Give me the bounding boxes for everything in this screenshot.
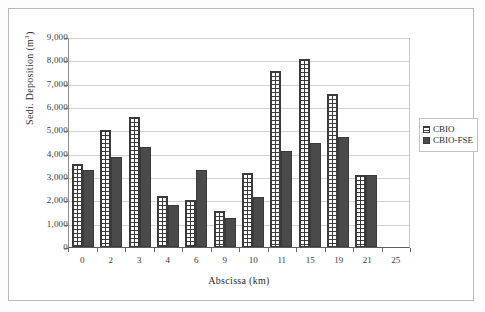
bar-cbio-fse: [253, 197, 264, 247]
bar-group: [267, 39, 295, 247]
legend-item-cbio-fse: CBIO-FSE: [423, 136, 473, 145]
bar-cbio: [157, 196, 168, 247]
y-tick-mark: [64, 225, 68, 226]
y-tick-mark: [64, 201, 68, 202]
y-tick-mark: [64, 61, 68, 62]
y-tick-mark: [64, 108, 68, 109]
x-tick-mark: [382, 248, 383, 252]
x-axis-label: Abscissa (km): [68, 275, 410, 286]
x-tick-mark: [68, 248, 69, 252]
x-tick-mark: [182, 248, 183, 252]
x-tick-label: 15: [297, 256, 323, 265]
bar-group: [126, 39, 154, 247]
x-tick-label: 19: [326, 256, 352, 265]
bar-group: [239, 39, 267, 247]
y-tick-mark: [64, 178, 68, 179]
bar-cbio: [327, 94, 338, 247]
chart-figure: Sedi. Deposition (m3) Abscissa (km) CBIO…: [0, 0, 485, 312]
x-tick-label: 25: [383, 256, 409, 265]
x-tick-label: 3: [126, 256, 152, 265]
bar-cbio-fse: [281, 151, 292, 247]
y-tick-label: 3,000: [22, 173, 68, 182]
bar-group: [211, 39, 239, 247]
x-tick-label: 6: [183, 256, 209, 265]
x-tick-label: 21: [354, 256, 380, 265]
bar-cbio-fse: [310, 143, 321, 247]
legend-label-cbio-fse: CBIO-FSE: [433, 136, 473, 145]
x-tick-mark: [125, 248, 126, 252]
y-tick-label: 4,000: [22, 150, 68, 159]
bar-group: [97, 39, 125, 247]
x-tick-label: 2: [98, 256, 124, 265]
bar-cbio-fse: [168, 205, 179, 247]
plot-area: [68, 38, 410, 248]
x-tick-label: 4: [155, 256, 181, 265]
y-tick-mark: [64, 131, 68, 132]
bar-cbio: [270, 71, 281, 247]
legend-swatch-cbio-icon: [423, 126, 430, 133]
bar-cbio: [355, 175, 366, 247]
x-tick-label: 11: [269, 256, 295, 265]
x-tick-mark: [268, 248, 269, 252]
bar-group: [296, 39, 324, 247]
bar-cbio: [299, 59, 310, 247]
bar-cbio: [242, 173, 253, 247]
y-tick-label: 2,000: [22, 196, 68, 205]
bar-cbio-fse: [338, 137, 349, 247]
x-tick-mark: [211, 248, 212, 252]
y-tick-mark: [64, 38, 68, 39]
y-tick-label: 6,000: [22, 103, 68, 112]
y-tick-label: 7,000: [22, 80, 68, 89]
bar-cbio: [185, 200, 196, 247]
chart-legend: CBIO CBIO-FSE: [419, 118, 478, 152]
y-tick-label: 5,000: [22, 126, 68, 135]
legend-swatch-cbio-fse-icon: [423, 137, 430, 144]
bar-group: [381, 39, 409, 247]
x-tick-mark: [410, 248, 411, 252]
x-tick-mark: [239, 248, 240, 252]
bar-group: [182, 39, 210, 247]
bar-cbio: [214, 211, 225, 247]
x-tick-mark: [353, 248, 354, 252]
bar-cbio-fse: [225, 218, 236, 247]
y-tick-mark: [64, 85, 68, 86]
y-tick-mark: [64, 155, 68, 156]
bar-cbio-fse: [196, 170, 207, 247]
y-tick-label: 8,000: [22, 56, 68, 65]
bar-group: [154, 39, 182, 247]
x-tick-mark: [154, 248, 155, 252]
bar-cbio: [100, 130, 111, 247]
y-tick-label: 9,000: [22, 33, 68, 42]
legend-item-cbio: CBIO: [423, 125, 473, 134]
y-tick-label: 0: [22, 243, 68, 252]
bar-cbio: [72, 164, 83, 247]
x-tick-label: 0: [69, 256, 95, 265]
y-tick-label: 1,000: [22, 220, 68, 229]
x-tick-mark: [296, 248, 297, 252]
bar-group: [324, 39, 352, 247]
x-tick-label: 9: [212, 256, 238, 265]
bar-cbio: [129, 117, 140, 247]
x-tick-mark: [97, 248, 98, 252]
legend-label-cbio: CBIO: [433, 125, 455, 134]
bar-groups: [69, 39, 409, 247]
bar-group: [69, 39, 97, 247]
bar-group: [352, 39, 380, 247]
bar-cbio-fse: [366, 175, 377, 247]
bar-cbio-fse: [83, 170, 94, 247]
bar-cbio-fse: [111, 157, 122, 247]
x-tick-label: 10: [240, 256, 266, 265]
x-tick-mark: [325, 248, 326, 252]
bar-cbio-fse: [140, 147, 151, 247]
